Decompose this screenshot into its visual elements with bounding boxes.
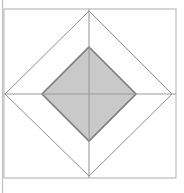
geometry-figure-canvas xyxy=(0,0,184,193)
geometry-figure-svg xyxy=(0,0,184,193)
